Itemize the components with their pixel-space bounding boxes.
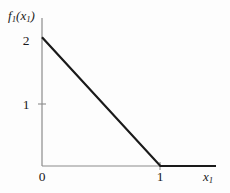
function-curve (42, 37, 216, 166)
y-axis-label-arg-subscript: 1 (26, 14, 30, 24)
figure-container: f1(x1) x1 2 1 0 1 (0, 0, 230, 193)
x-axis-label-base: x (203, 169, 209, 184)
y-axis-label: f1(x1) (8, 9, 35, 22)
y-tick-label-2: 2 (18, 34, 34, 48)
x-tick-label-0: 0 (34, 170, 50, 184)
x-tick-label-1: 1 (152, 170, 168, 184)
x-axis-label: x1 (203, 170, 213, 183)
x-axis-label-subscript: 1 (209, 175, 213, 185)
y-tick-label-1: 1 (18, 98, 34, 112)
y-axis-label-subscript: 1 (12, 14, 16, 24)
plot-canvas (0, 0, 230, 193)
